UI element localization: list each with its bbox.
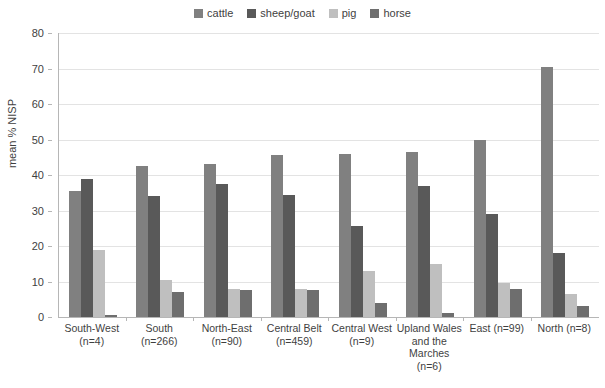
x-category-line: (n=90)	[194, 335, 260, 348]
bar-horse	[577, 306, 589, 317]
bar-groups	[59, 33, 599, 317]
x-category-line: and the	[397, 335, 463, 348]
bar-group	[464, 33, 532, 317]
bar-sheep-goat	[216, 184, 228, 317]
bar-pig	[430, 264, 442, 317]
legend-item-horse: horse	[370, 8, 411, 19]
y-tick-label: 30	[32, 205, 44, 216]
x-category-line: Upland Wales	[397, 322, 463, 335]
x-tick-mark	[396, 317, 397, 321]
x-category-line: (n=266)	[127, 335, 193, 348]
bar-cattle	[474, 140, 486, 318]
x-category-line: North (n=8)	[532, 322, 598, 335]
bar-sheep-goat	[81, 179, 93, 317]
bar-group	[397, 33, 465, 317]
y-tick-mark	[48, 317, 52, 318]
x-tick-mark	[531, 317, 532, 321]
bar-cattle	[69, 191, 81, 317]
y-tick-label: 40	[32, 170, 44, 181]
y-tick-label: 50	[32, 134, 44, 145]
bar-horse	[307, 290, 319, 317]
y-tick-label: 80	[32, 28, 44, 39]
x-axis: South-West(n=4)South(n=266)North-East(n=…	[58, 322, 598, 386]
bar-cattle	[541, 67, 553, 317]
bar-pig	[498, 283, 510, 317]
bar-pig	[160, 280, 172, 317]
x-category-line: South	[127, 322, 193, 335]
x-category-line: North-East	[194, 322, 260, 335]
x-category-line: (n=9)	[329, 335, 395, 348]
x-category-line: (n=4)	[59, 335, 125, 348]
bar-cattle	[271, 155, 283, 317]
legend-item-sheep-goat: sheep/goat	[247, 8, 314, 19]
bar-horse	[510, 289, 522, 317]
x-category-label: Central Belt(n=459)	[261, 322, 329, 386]
x-tick-mark	[126, 317, 127, 321]
x-category-label: North (n=8)	[531, 322, 599, 386]
legend-item-cattle: cattle	[194, 8, 233, 19]
x-tick-mark	[261, 317, 262, 321]
bar-cattle	[339, 154, 351, 317]
bar-group	[262, 33, 330, 317]
bar-group	[59, 33, 127, 317]
bar-sheep-goat	[148, 196, 160, 317]
bar-sheep-goat	[486, 214, 498, 317]
bar-pig	[295, 289, 307, 317]
legend-item-pig: pig	[329, 8, 357, 19]
bar-cattle	[204, 164, 216, 317]
y-tick-label: 0	[38, 312, 44, 323]
legend-swatch-icon	[329, 9, 338, 18]
x-category-line: Marches	[397, 347, 463, 360]
bar-horse	[105, 315, 117, 317]
legend-swatch-icon	[247, 9, 256, 18]
x-category-label: East (n=99)	[463, 322, 531, 386]
legend-label: horse	[383, 8, 411, 19]
y-axis-title: mean % NISP	[7, 79, 18, 189]
y-tick-label: 70	[32, 63, 44, 74]
bar-horse	[240, 290, 252, 317]
bar-pig	[363, 271, 375, 317]
y-tick-label: 60	[32, 99, 44, 110]
bar-sheep-goat	[553, 253, 565, 317]
x-tick-mark	[463, 317, 464, 321]
bar-horse	[375, 303, 387, 317]
y-tick-mark	[48, 175, 52, 176]
bar-group	[532, 33, 600, 317]
y-tick-mark	[48, 69, 52, 70]
y-tick-mark	[48, 33, 52, 34]
x-category-label: Upland Walesand theMarches(n=6)	[396, 322, 464, 386]
legend-label: sheep/goat	[260, 8, 314, 19]
y-tick-mark	[48, 282, 52, 283]
bar-pig	[93, 250, 105, 317]
bar-cattle	[136, 166, 148, 317]
x-category-line: South-West	[59, 322, 125, 335]
y-tick-mark	[48, 211, 52, 212]
bar-group	[194, 33, 262, 317]
bar-sheep-goat	[283, 195, 295, 317]
chart-legend: cattlesheep/goatpighorse	[0, 8, 605, 19]
x-category-label: North-East(n=90)	[193, 322, 261, 386]
x-category-label: South(n=266)	[126, 322, 194, 386]
x-category-line: (n=6)	[397, 360, 463, 373]
legend-swatch-icon	[194, 9, 203, 18]
x-category-line: Central Belt	[262, 322, 328, 335]
x-tick-mark	[193, 317, 194, 321]
bar-pig	[565, 294, 577, 317]
bar-group	[127, 33, 195, 317]
plot-area	[58, 33, 599, 318]
legend-label: pig	[342, 8, 357, 19]
x-category-line: East (n=99)	[464, 322, 530, 335]
bar-group	[329, 33, 397, 317]
y-tick-mark	[48, 140, 52, 141]
x-category-label: Central West(n=9)	[328, 322, 396, 386]
bar-sheep-goat	[351, 226, 363, 317]
bar-horse	[172, 292, 184, 317]
bar-pig	[228, 289, 240, 317]
x-category-line: Central West	[329, 322, 395, 335]
bar-sheep-goat	[418, 186, 430, 317]
y-tick-mark	[48, 104, 52, 105]
x-category-line: (n=459)	[262, 335, 328, 348]
legend-swatch-icon	[370, 9, 379, 18]
y-tick-label: 20	[32, 241, 44, 252]
bar-cattle	[406, 152, 418, 317]
